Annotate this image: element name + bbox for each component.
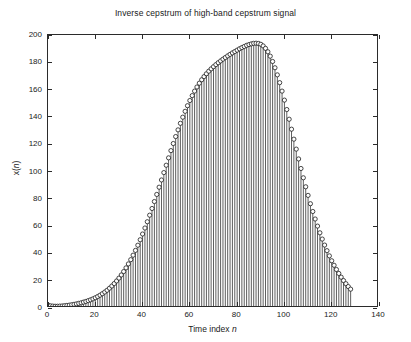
y-axis-tick [48, 253, 52, 254]
data-point-marker [171, 141, 175, 145]
y-axis-tick [373, 144, 377, 145]
data-point-marker [275, 73, 279, 77]
data-point-marker [178, 121, 182, 125]
x-axis-tick [48, 35, 49, 39]
x-axis-title-variable: n [232, 324, 237, 334]
y-axis-tick [373, 62, 377, 63]
y-axis-tick-label: 40 [0, 248, 42, 257]
data-point-marker [188, 98, 192, 102]
data-point-marker [138, 238, 142, 242]
data-point-marker [155, 192, 159, 196]
y-axis-tick [48, 89, 52, 90]
y-axis-tick-label: 200 [0, 30, 42, 39]
y-axis-tick [373, 116, 377, 117]
data-point-marker [166, 156, 170, 160]
x-axis-tick-label: 140 [371, 310, 384, 319]
data-point-marker [169, 149, 173, 153]
x-axis-tick [142, 302, 143, 306]
data-point-marker [280, 89, 284, 93]
plot-area [47, 34, 378, 307]
data-point-marker [318, 231, 322, 235]
data-point-marker [323, 243, 327, 247]
x-axis-tick-label: 80 [232, 310, 241, 319]
y-axis-tick [48, 144, 52, 145]
x-axis-title: Time index n [47, 324, 378, 334]
data-point-marker [271, 59, 275, 63]
x-axis-tick [331, 35, 332, 39]
data-point-marker [332, 263, 336, 267]
data-point-marker [159, 178, 163, 182]
data-point-marker [282, 98, 286, 102]
y-axis-tick [48, 116, 52, 117]
y-axis-tick [48, 62, 52, 63]
y-axis-tick [373, 198, 377, 199]
y-axis-tick-label: 140 [0, 111, 42, 120]
y-axis-tick [373, 171, 377, 172]
y-axis-tick-label: 120 [0, 139, 42, 148]
data-point-marker [192, 89, 196, 93]
y-axis-tick [373, 226, 377, 227]
data-point-marker [181, 115, 185, 119]
x-axis-title-text: Time index [188, 324, 232, 334]
data-point-marker [268, 54, 272, 58]
data-point-marker [129, 258, 133, 262]
data-point-marker [294, 147, 298, 151]
data-point-marker [297, 157, 301, 161]
data-point-marker [330, 259, 334, 263]
data-point-marker [150, 206, 154, 210]
data-point-marker [190, 94, 194, 98]
y-axis-tick-label: 60 [0, 221, 42, 230]
data-point-marker [327, 254, 331, 258]
data-point-marker [145, 220, 149, 224]
x-axis-tick [237, 35, 238, 39]
y-axis-tick [373, 35, 377, 36]
data-point-marker [289, 127, 293, 131]
data-point-marker [183, 109, 187, 113]
data-point-marker [308, 202, 312, 206]
data-point-marker [176, 128, 180, 132]
x-axis-tick-label: 20 [90, 310, 99, 319]
y-axis-tick-label: 160 [0, 84, 42, 93]
data-point-marker [143, 226, 147, 230]
data-point-marker [287, 117, 291, 121]
x-axis-tick [379, 35, 380, 39]
y-axis-tick-label: 80 [0, 193, 42, 202]
data-point-marker [313, 217, 317, 221]
y-axis-tick-label: 180 [0, 57, 42, 66]
data-point-marker [140, 232, 144, 236]
plot-inner [48, 35, 377, 306]
x-axis-tick [189, 302, 190, 306]
x-axis-tick-label: 120 [324, 310, 337, 319]
x-axis-tick [379, 302, 380, 306]
x-axis-tick-label: 60 [184, 310, 193, 319]
data-point-marker [349, 287, 353, 291]
y-axis-tick [48, 226, 52, 227]
y-axis-tick [48, 171, 52, 172]
data-point-marker [131, 253, 135, 257]
data-point-marker [311, 209, 315, 213]
y-axis-tick [48, 198, 52, 199]
y-axis-tick-label: 20 [0, 275, 42, 284]
data-point-marker [162, 170, 166, 174]
x-axis-tick-label: 100 [277, 310, 290, 319]
y-axis-tick-label: 0 [0, 303, 42, 312]
y-axis-tick [48, 308, 52, 309]
y-axis-tick [373, 253, 377, 254]
data-point-marker [164, 163, 168, 167]
data-point-marker [285, 107, 289, 111]
x-axis-tick [95, 302, 96, 306]
data-point-marker [301, 176, 305, 180]
chart-title: Inverse cepstrum of high-band cepstrum s… [0, 8, 411, 18]
data-point-marker [148, 213, 152, 217]
y-axis-tick [373, 89, 377, 90]
chart-figure: Inverse cepstrum of high-band cepstrum s… [0, 0, 411, 342]
data-point-marker [266, 50, 270, 54]
data-point-marker [320, 237, 324, 241]
x-axis-tick [237, 302, 238, 306]
data-point-marker [133, 248, 137, 252]
data-point-marker [136, 243, 140, 247]
y-axis-tick [373, 308, 377, 309]
x-axis-tick [331, 302, 332, 306]
data-point-marker [292, 137, 296, 141]
data-point-marker [126, 262, 130, 266]
